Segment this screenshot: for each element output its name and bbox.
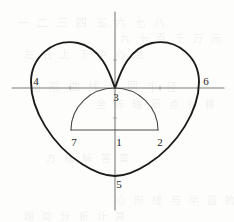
label-6: 6 [203,76,209,87]
label-4: 4 [33,76,39,87]
label-5: 5 [116,179,122,190]
heart-curve-figure: 一 二 三 四 五 六 七 八九 十 百 千 万 元左 右 上 下 中 心 点图… [0,0,234,222]
label-7: 7 [71,137,77,148]
label-1: 1 [116,137,122,148]
label-3: 3 [113,92,119,103]
label-2: 2 [157,137,163,148]
